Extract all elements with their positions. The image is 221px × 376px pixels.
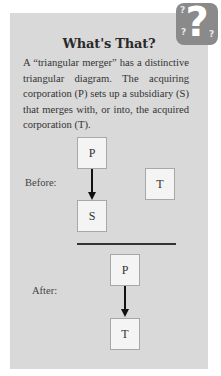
after-label: After: xyxy=(32,285,57,296)
after-parent-box: P xyxy=(110,254,140,286)
before-target-box: T xyxy=(145,168,175,200)
before-target-label: T xyxy=(156,177,163,192)
before-label: Before: xyxy=(25,177,57,188)
after-parent-label: P xyxy=(122,263,129,278)
before-parent-box: P xyxy=(77,137,107,169)
divider xyxy=(77,243,176,245)
subsidiary-label: S xyxy=(89,209,96,224)
before-parent-label: P xyxy=(89,146,96,161)
box-body-text: A “triangular merger” has a distinctive … xyxy=(23,55,189,133)
before-arrow-line xyxy=(91,169,93,193)
arrow-down-icon xyxy=(121,309,129,317)
box-title: What's That? xyxy=(10,36,208,51)
subsidiary-box: S xyxy=(77,200,107,232)
after-target-label: T xyxy=(121,327,128,342)
arrow-down-icon xyxy=(88,192,96,200)
after-target-box: T xyxy=(110,318,140,350)
after-arrow-line xyxy=(124,286,126,310)
